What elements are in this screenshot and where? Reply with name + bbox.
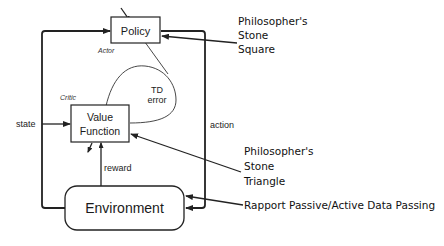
svg-text:Triangle: Triangle	[243, 175, 285, 187]
critic-label: Critic	[60, 94, 76, 101]
value-bottom-tick	[88, 143, 92, 152]
svg-text:Philosopher's: Philosopher's	[238, 15, 308, 27]
value-function-node: Value Function	[71, 105, 129, 142]
actor-label: Actor	[97, 47, 115, 54]
actor-critic-diagram: Policy Actor Value Function Critic Envir…	[0, 0, 444, 246]
svg-text:Stone: Stone	[238, 29, 268, 41]
triangle-annotation: Philosopher's Stone Triangle	[243, 145, 314, 187]
action-loop-line	[161, 31, 205, 208]
square-pointer	[162, 36, 237, 43]
environment-node: Environment	[65, 186, 184, 230]
policy-label: Policy	[121, 25, 151, 37]
td-label-line2: error	[147, 95, 166, 105]
td-label-line1: TD	[151, 85, 163, 95]
square-annotation: Philosopher's Stone Square	[238, 15, 308, 55]
triangle-pointer	[131, 134, 241, 172]
action-label: action	[210, 120, 234, 130]
svg-text:Square: Square	[238, 43, 275, 55]
svg-text:Stone: Stone	[244, 160, 274, 172]
value-label-line2: Function	[80, 125, 120, 137]
reward-label: reward	[104, 163, 132, 173]
rapport-annotation: Rapport Passive/Active Data Passing	[244, 199, 435, 211]
rapport-pointer	[186, 196, 243, 205]
value-label-line1: Value	[87, 111, 113, 123]
policy-node: Policy	[111, 17, 160, 43]
environment-label: Environment	[85, 200, 164, 216]
state-label: state	[16, 119, 36, 129]
svg-text:Philosopher's: Philosopher's	[244, 145, 314, 157]
